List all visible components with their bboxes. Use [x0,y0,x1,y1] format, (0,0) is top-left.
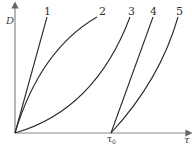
curve-5-label: 5 [176,5,183,18]
tau0-tick-label: τ0 [107,134,116,144]
x-axis-label: τ [184,134,190,144]
curve-4 [111,17,153,133]
chart: D τ τ0 1 2 3 4 5 [0,0,192,144]
curve-5 [111,17,178,133]
curve-1-label: 1 [44,5,51,18]
tau0-sub: 0 [112,138,116,144]
curve-1 [15,17,47,133]
y-axis-label: D [5,15,14,26]
curve-4-label: 4 [150,5,157,18]
curve-3-label: 3 [128,5,135,18]
curve-2-label: 2 [99,5,106,18]
curve-2 [15,17,97,133]
